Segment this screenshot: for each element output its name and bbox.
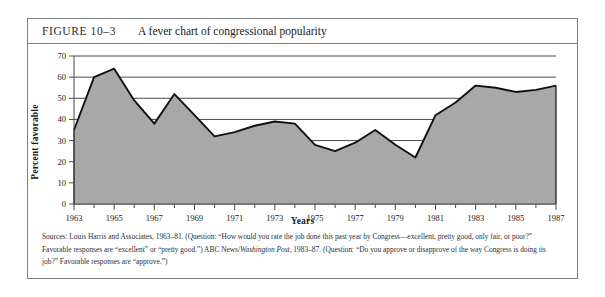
y-tick-label-0: 0	[62, 199, 66, 209]
y-tick-label-50: 50	[58, 93, 67, 103]
y-tick-label-20: 20	[58, 157, 67, 167]
fever-chart-svg: 0102030405060701963196519671969197119731…	[28, 44, 577, 236]
source-note-publication: Washington Post	[240, 245, 290, 254]
source-note: Sources: Louis Harris and Associates, 19…	[42, 231, 560, 269]
figure-number: FIGURE 10–3	[42, 25, 116, 37]
chart-canvas: 0102030405060701963196519671969197119731…	[28, 44, 577, 240]
chart-plot-area: Percent favorable 0102030405060701963196…	[28, 44, 577, 236]
y-tick-label-10: 10	[58, 178, 67, 188]
figure-frame: FIGURE 10–3 A fever chart of congression…	[27, 18, 578, 279]
y-tick-label-30: 30	[58, 136, 67, 146]
y-tick-label-60: 60	[58, 72, 67, 82]
figure-header: FIGURE 10–3 A fever chart of congression…	[28, 19, 577, 44]
figure-title: A fever chart of congressional popularit…	[138, 25, 327, 37]
area-fill	[74, 69, 556, 204]
y-tick-label-70: 70	[58, 51, 67, 61]
y-tick-label-40: 40	[58, 114, 67, 124]
x-axis-title: Years	[28, 216, 577, 226]
